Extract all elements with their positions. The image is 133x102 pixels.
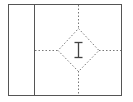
diagram-canvas xyxy=(0,0,133,102)
outer-frame xyxy=(9,5,122,96)
